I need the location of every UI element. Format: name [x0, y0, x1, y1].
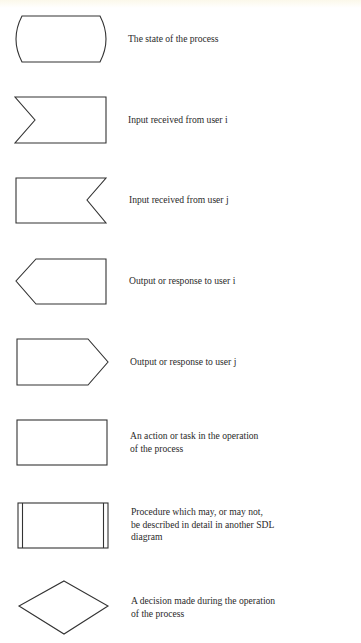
decision-symbol-icon: [0, 0, 361, 643]
decision-label: A decision made during the operation of …: [131, 595, 275, 620]
